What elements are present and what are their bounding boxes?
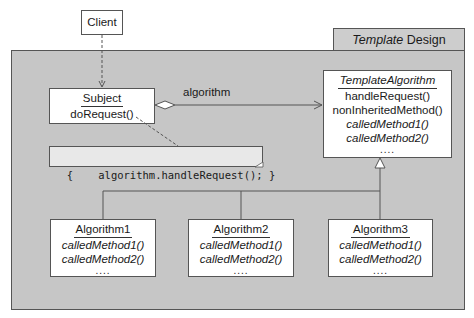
client-dependency-arrow [99,35,105,87]
generalization-tree [103,158,385,219]
connectors-layer [0,0,474,318]
note-fold-icon [255,162,263,167]
inheritance-triangle-icon [375,158,385,168]
aggregation-diamond-icon [155,101,175,109]
aggregation-association [155,101,322,109]
note-anchor-line [136,117,178,146]
